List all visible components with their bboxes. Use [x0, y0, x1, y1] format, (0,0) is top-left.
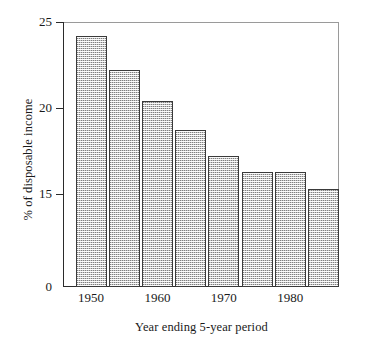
bar: [142, 101, 173, 287]
y-tick-mark: [56, 194, 64, 195]
y-tick-mark: [56, 22, 64, 23]
bar: [275, 172, 306, 287]
y-tick-mark: [56, 108, 64, 109]
y-tick-label: 25: [39, 15, 52, 28]
bar: [242, 172, 273, 287]
x-axis-title: Year ending 5-year period: [63, 320, 340, 335]
bar: [109, 70, 140, 287]
bar: [76, 36, 107, 287]
y-tick-label: 20: [39, 101, 52, 114]
y-tick-label: 0: [46, 280, 53, 293]
x-tick-label: 1980: [260, 291, 320, 304]
bar-chart: % of disposable income 2520150 195019601…: [0, 0, 366, 345]
x-tick-label: 1960: [127, 291, 187, 304]
bar: [175, 130, 206, 287]
bar: [208, 156, 239, 287]
bar: [308, 189, 339, 287]
x-tick-label: 1950: [61, 291, 121, 304]
x-tick-label: 1970: [194, 291, 254, 304]
y-tick-label: 15: [39, 187, 52, 200]
y-axis-title: % of disposable income: [21, 60, 36, 260]
